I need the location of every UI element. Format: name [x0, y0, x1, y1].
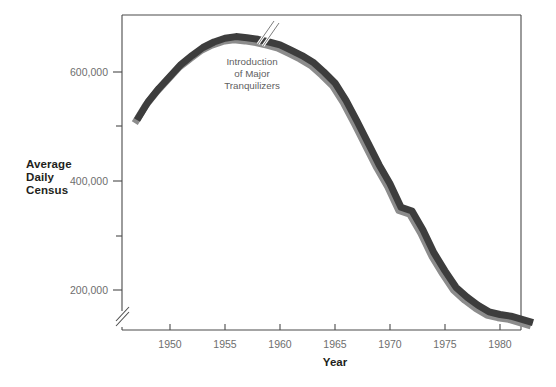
x-tick-label-1950: 1950: [158, 338, 182, 350]
x-tick-label-1960: 1960: [268, 338, 292, 350]
y-tick-label-400000: 400,000: [70, 175, 108, 187]
x-tick-label-1965: 1965: [323, 338, 347, 350]
y-tick-label-600000: 600,000: [70, 66, 108, 78]
y-axis-title-line-1: Average: [26, 158, 72, 170]
y-axis-title-line-3: Census: [26, 184, 68, 196]
x-tick-label-1980: 1980: [488, 338, 512, 350]
annotation-line-1: Introduction: [226, 56, 277, 67]
x-tick-label-1955: 1955: [213, 338, 237, 350]
x-tick-label-1975: 1975: [433, 338, 457, 350]
x-tick-label-1970: 1970: [378, 338, 402, 350]
x-axis-title: Year: [323, 356, 348, 368]
y-tick-label-200000: 200,000: [70, 284, 108, 296]
chart-container: 600,000 400,000 200,000 Average Daily Ce…: [0, 0, 556, 387]
annotation-line-2: of Major: [234, 68, 270, 79]
census-line-chart: 600,000 400,000 200,000 Average Daily Ce…: [0, 0, 556, 387]
y-axis-title-line-2: Daily: [26, 171, 54, 183]
chart-background: [0, 0, 556, 387]
annotation-line-3: Tranquilizers: [224, 80, 280, 91]
